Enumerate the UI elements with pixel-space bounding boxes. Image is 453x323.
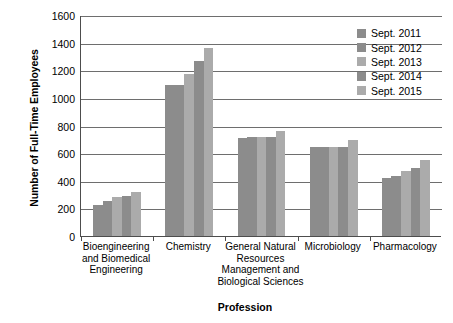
legend-label: Sept. 2011 (371, 27, 421, 39)
bar (382, 178, 392, 236)
x-category-label-line: Management and (216, 264, 304, 276)
y-tick-label: 200 (35, 204, 75, 215)
legend-swatch (357, 86, 366, 95)
bar (93, 205, 103, 236)
bar-group (310, 15, 358, 236)
x-axis-title: Profession (80, 301, 410, 313)
bar (184, 74, 194, 236)
bar (420, 160, 430, 236)
legend-label: Sept. 2012 (371, 42, 422, 54)
y-tick-label: 1000 (35, 94, 75, 105)
bar (122, 196, 132, 236)
bar (411, 168, 421, 236)
y-tick-label: 800 (35, 122, 75, 133)
bar (310, 147, 320, 236)
y-tick-label: 600 (35, 149, 75, 160)
legend-label: Sept. 2014 (371, 70, 422, 82)
legend-swatch (357, 72, 366, 81)
bar (257, 137, 267, 236)
legend-item: Sept. 2015 (357, 84, 453, 98)
legend-swatch (357, 29, 366, 38)
y-tick-label: 0 (35, 232, 75, 243)
bar (338, 147, 348, 236)
bar (204, 48, 214, 236)
bar (401, 171, 411, 236)
bar (319, 147, 329, 236)
y-tick-label: 400 (35, 177, 75, 188)
bar-group (93, 15, 141, 236)
bar-chart: Number of Full-Time Employees 0200400600… (0, 0, 453, 323)
legend-swatch (357, 43, 366, 52)
bar-group (238, 15, 286, 236)
legend-item: Sept. 2011 (357, 26, 453, 40)
bar (165, 85, 175, 236)
y-tick-label: 1400 (35, 39, 75, 50)
bar (175, 85, 185, 236)
bar (112, 197, 122, 236)
bar (329, 147, 339, 236)
bar (131, 192, 141, 236)
legend-label: Sept. 2013 (371, 56, 422, 68)
y-axis-tick-labels: 02004006008001000120014001600 (30, 16, 75, 237)
x-category-label-line: Biological Sciences (216, 276, 304, 288)
bar (266, 137, 276, 236)
x-category-label: Pharmacology (361, 241, 449, 253)
bar (194, 61, 204, 236)
bar (276, 131, 286, 236)
bar-group (165, 15, 213, 236)
legend-item: Sept. 2012 (357, 40, 453, 54)
legend: Sept. 2011Sept. 2012Sept. 2013Sept. 2014… (357, 26, 453, 98)
y-tick-label: 1200 (35, 66, 75, 77)
x-category-label-line: Pharmacology (361, 241, 449, 253)
bar (103, 201, 113, 236)
x-category-label-line: and Biomedical (72, 253, 160, 265)
bar (348, 140, 358, 236)
x-category-label-line: Engineering (72, 264, 160, 276)
legend-item: Sept. 2013 (357, 55, 453, 69)
y-tick-label: 1600 (35, 11, 75, 22)
x-category-label-line: Resources (216, 253, 304, 265)
bar (391, 176, 401, 236)
bar (247, 137, 257, 236)
bar (238, 138, 248, 236)
legend-swatch (357, 57, 366, 66)
legend-label: Sept. 2015 (371, 85, 422, 97)
legend-item: Sept. 2014 (357, 69, 453, 83)
